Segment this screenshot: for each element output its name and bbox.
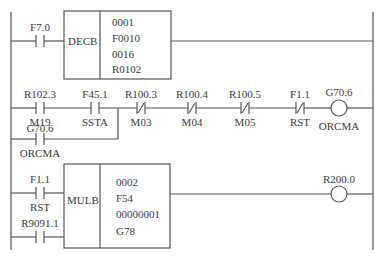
contact-no-icon	[36, 187, 44, 199]
block-param: 0016	[112, 49, 134, 60]
function-block-name: DECB	[68, 36, 97, 47]
contact-name: RST	[30, 202, 50, 213]
contact-nc-icon	[188, 102, 196, 114]
contact-address: F1.1	[290, 89, 310, 100]
coil-icon	[331, 100, 347, 116]
contact-address: R100.5	[229, 89, 261, 100]
coil-address: G70.6	[325, 87, 352, 98]
contact-no-icon	[36, 133, 44, 145]
contact-address: G70.6	[26, 123, 53, 134]
block-param: 0002	[116, 177, 138, 188]
contact-name: RST	[290, 117, 310, 128]
contact-no-icon	[36, 35, 44, 47]
contact-no-icon	[36, 231, 44, 243]
block-param: F54	[116, 193, 133, 204]
block-param: 00000001	[116, 209, 160, 220]
block-param: R0102	[112, 64, 141, 75]
block-param: 0001	[112, 17, 134, 28]
contact-nc-icon	[137, 102, 145, 114]
contact-address: R102.3	[24, 89, 56, 100]
block-param: F0010	[112, 33, 140, 44]
contact-name: M03	[131, 117, 152, 128]
contact-name: ORCMA	[20, 148, 60, 159]
contact-address: F1.1	[30, 174, 50, 185]
contact-address: R9091.1	[21, 218, 59, 229]
function-block-name: MULB	[67, 195, 99, 206]
contact-address: F45.1	[82, 89, 107, 100]
coil-name: ORCMA	[319, 121, 359, 132]
contact-address: R100.4	[176, 89, 208, 100]
contact-address: F7.0	[30, 22, 50, 33]
contact-nc-icon	[296, 102, 304, 114]
contact-name: M05	[235, 117, 256, 128]
contact-address: R100.3	[125, 89, 157, 100]
coil-address: R200.0	[323, 174, 355, 185]
contact-name: M04	[182, 117, 203, 128]
contact-no-icon	[36, 102, 44, 114]
contact-name: SSTA	[82, 117, 108, 128]
coil-icon	[331, 186, 347, 202]
block-param: G78	[116, 226, 135, 237]
contact-nc-icon	[241, 102, 249, 114]
contact-no-icon	[91, 102, 99, 114]
